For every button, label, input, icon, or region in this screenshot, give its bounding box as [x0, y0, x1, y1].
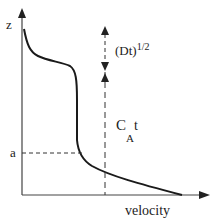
velocity-profile-diagram: z a velocity (Dt)1/2 C t A: [0, 0, 218, 224]
y-axis-label: z: [6, 17, 12, 32]
lower-arrow-up-icon: [101, 73, 109, 82]
concentration-label-sub: A: [126, 132, 134, 144]
concentration-label-c: C: [116, 117, 126, 133]
y-axis-arrow-icon: [18, 8, 26, 18]
height-a-label: a: [10, 145, 16, 160]
diffusion-arrow-down-icon: [101, 62, 109, 71]
diffusion-arrow-up-icon: [101, 26, 109, 35]
x-axis-arrow-icon: [199, 191, 210, 199]
diffusion-label: (Dt)1/2: [115, 41, 149, 58]
x-axis-label: velocity: [125, 203, 170, 218]
velocity-profile-curve: [24, 29, 182, 195]
concentration-label-t: t: [134, 118, 138, 133]
